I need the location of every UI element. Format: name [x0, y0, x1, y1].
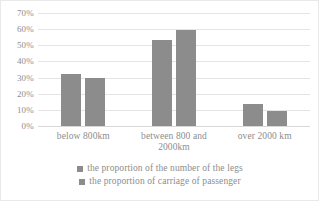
y-axis-tick: 40% [17, 57, 34, 66]
legend-item-series-2[interactable]: the proportion of carriage of passenger [79, 176, 240, 187]
category-label: over 2000 km [219, 131, 310, 153]
bar-series-1[interactable] [61, 74, 81, 126]
bar-series-2[interactable] [267, 111, 287, 126]
category-label: below 800km [38, 131, 129, 153]
legend-label: the proportion of carriage of passenger [89, 176, 240, 187]
axis-baseline [38, 126, 310, 127]
bar-group [129, 13, 220, 126]
bar-series-2[interactable] [176, 30, 196, 126]
y-axis-tick: 0% [22, 122, 34, 131]
bar-groups [38, 13, 310, 126]
bar-group [219, 13, 310, 126]
x-axis-category-labels: below 800km between 800 and 2000km over … [38, 131, 310, 153]
bar-series-1[interactable] [243, 104, 263, 126]
y-axis-tick: 60% [17, 25, 34, 34]
legend-swatch-icon [79, 179, 85, 185]
y-axis-tick: 30% [17, 73, 34, 82]
legend-swatch-icon [77, 166, 83, 172]
bar-group [38, 13, 129, 126]
y-axis-tick: 20% [17, 89, 34, 98]
legend-item-series-1[interactable]: the proportion of the number of the legs [77, 163, 243, 174]
y-axis-tick: 10% [17, 105, 34, 114]
y-axis-tick: 70% [17, 9, 34, 18]
y-axis-tick-labels: 70% 60% 50% 40% 30% 20% 10% 0% [0, 13, 34, 126]
clipped-title-text [0, 0, 320, 3]
plot-area [38, 13, 310, 126]
category-label: between 800 and 2000km [129, 131, 220, 153]
legend-label: the proportion of the number of the legs [87, 163, 243, 174]
bar-series-1[interactable] [152, 40, 172, 126]
bar-series-2[interactable] [85, 78, 105, 126]
chart-legend: the proportion of the number of the legs… [0, 163, 320, 187]
y-axis-tick: 50% [17, 41, 34, 50]
